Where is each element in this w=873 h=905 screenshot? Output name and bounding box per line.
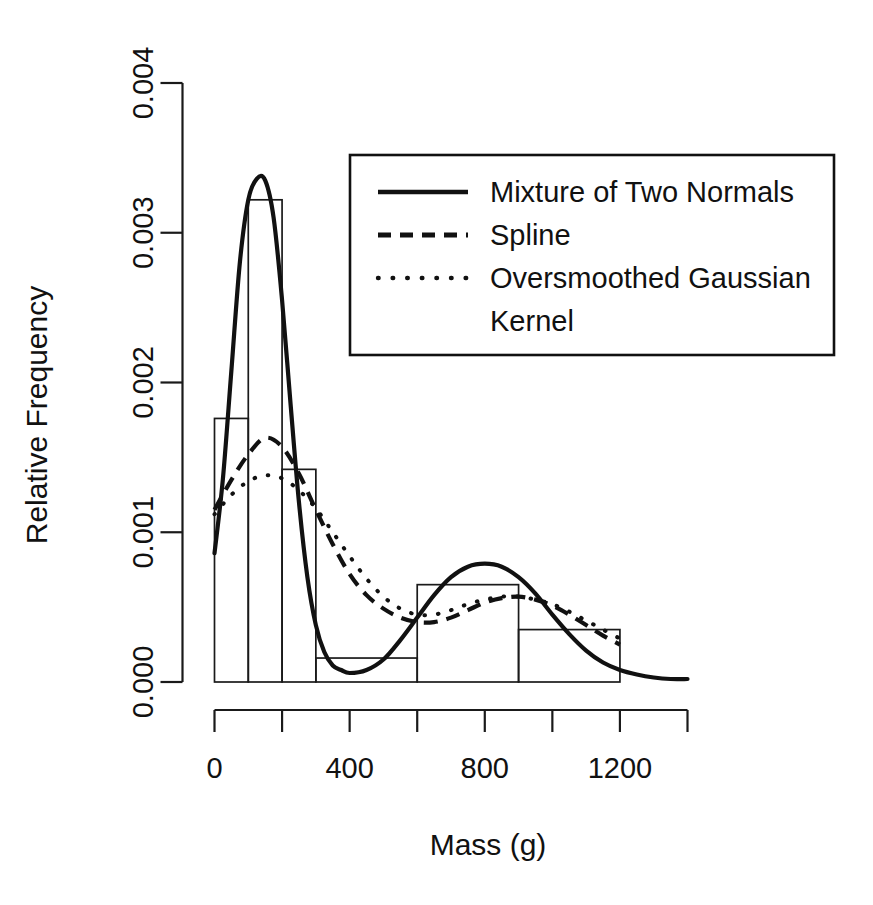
legend-label: Spline	[490, 219, 571, 251]
y-tick-label: 0.004	[127, 47, 159, 120]
y-tick-label: 0.001	[127, 496, 159, 569]
chart-legend: Mixture of Two NormalsSplineOversmoothed…	[350, 155, 834, 355]
legend-label: Oversmoothed Gaussian	[490, 262, 811, 294]
y-tick-label: 0.003	[127, 196, 159, 269]
relative-frequency-histogram-plot: 0.0000.0010.0020.0030.004 Relative Frequ…	[0, 0, 873, 905]
y-tick-label: 0.000	[127, 646, 159, 719]
chart-figure: 0.0000.0010.0020.0030.004 Relative Frequ…	[0, 0, 873, 905]
plot-background	[0, 0, 873, 905]
y-axis-title: Relative Frequency	[20, 286, 53, 544]
x-tick-label: 1200	[588, 752, 653, 784]
legend-label: Mixture of Two Normals	[490, 176, 794, 208]
x-tick-label: 400	[325, 752, 373, 784]
x-axis-title: Mass (g)	[430, 828, 547, 861]
x-tick-label: 0	[206, 752, 222, 784]
x-tick-label: 800	[461, 752, 509, 784]
y-tick-label: 0.002	[127, 346, 159, 419]
legend-label: Kernel	[490, 305, 574, 337]
